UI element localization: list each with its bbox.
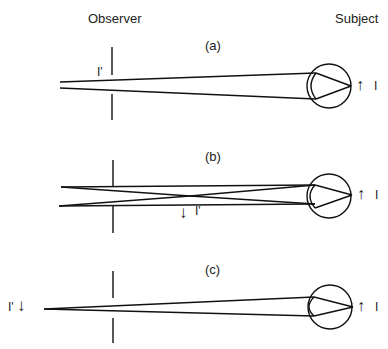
eye-b — [307, 174, 351, 218]
down-arrow-icon: ↓ — [179, 203, 188, 223]
panel-b-object-label: I — [375, 188, 378, 202]
panel-c-object-label: I — [375, 300, 378, 314]
subject-header: Subject — [335, 11, 378, 26]
panel-c-image-label: I' — [8, 300, 14, 314]
panel-a-drawing — [60, 47, 351, 120]
down-arrow-icon: ↓ — [17, 296, 26, 316]
panel-c-drawing — [44, 271, 353, 343]
panel-b-image-label: I' — [195, 204, 201, 218]
panel-b-drawing — [59, 160, 352, 233]
panel-a-label: (a) — [205, 38, 221, 53]
diagram-canvas — [0, 0, 388, 349]
eye-a — [307, 64, 351, 108]
eye-c — [308, 285, 352, 329]
panel-b-label: (b) — [205, 149, 221, 164]
up-arrow-icon: ↑ — [356, 76, 364, 94]
up-arrow-icon: ↑ — [357, 297, 365, 315]
up-arrow-icon: ↑ — [357, 185, 365, 203]
panel-a-object-label: I — [374, 79, 377, 93]
panel-a-image-label: I' — [97, 65, 103, 79]
panel-c-label: (c) — [205, 262, 220, 277]
observer-header: Observer — [88, 11, 141, 26]
